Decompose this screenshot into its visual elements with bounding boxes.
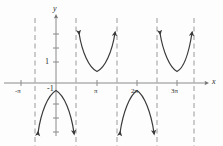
x-axis-label: x	[212, 78, 216, 86]
y-tick-label-neg-one: -1	[47, 85, 54, 93]
branch-second-arch	[120, 91, 154, 134]
y-tick-label-one: 1	[45, 58, 49, 66]
secant-function-graph: x y -π π 2π 3π 1 -1	[0, 0, 223, 146]
branch-first-u	[79, 33, 115, 72]
graph-canvas	[0, 0, 223, 146]
branch-second-u	[160, 33, 192, 72]
x-tick-label-pi: π	[94, 88, 98, 95]
y-axis-label: y	[53, 5, 57, 13]
x-tick-label-three-pi: 3π	[171, 88, 178, 95]
x-tick-label-two-pi: 2π	[131, 88, 138, 95]
x-tick-label-neg-pi: -π	[15, 88, 21, 95]
